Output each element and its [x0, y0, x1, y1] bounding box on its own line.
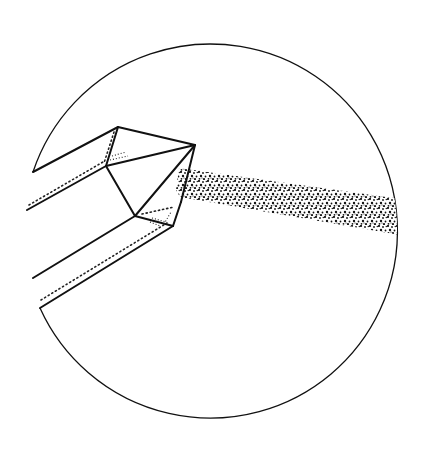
- stippled-band: [176, 168, 400, 235]
- crystal-shading: [29, 132, 174, 300]
- field-of-view-circle: [33, 44, 397, 418]
- crystal-drawing: [27, 127, 195, 308]
- microscope-field-illustration: [0, 0, 423, 454]
